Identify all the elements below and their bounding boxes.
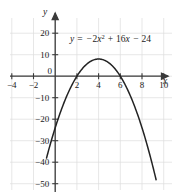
y-tick-label: 20 — [40, 28, 50, 38]
equation-annotation: y=−2x2+16x−24 — [69, 33, 151, 45]
parabola-graph-figure: −4−20246810 2010−10−20−30−40−50−60 y x y… — [0, 0, 175, 195]
x-tick-label: 8 — [140, 80, 145, 90]
x-tick-label: 4 — [96, 80, 101, 90]
x-tick-label: −2 — [29, 80, 39, 90]
y-tick-label: −40 — [35, 157, 50, 167]
x-tick-label: 6 — [118, 80, 123, 90]
y-tick-label: −20 — [35, 114, 50, 124]
y-tick-label: −10 — [35, 93, 50, 103]
equation-term1-sign: − — [87, 34, 92, 44]
x-tick-label: 2 — [75, 80, 80, 90]
equation-term2-var: x — [125, 34, 131, 44]
y-tick-label: −30 — [35, 136, 50, 146]
equation-term2-sign: + — [108, 34, 113, 44]
equation-term1-exponent: 2 — [101, 33, 104, 40]
x-tick-label: −4 — [7, 80, 17, 90]
equation-equals: = — [77, 34, 82, 44]
y-axis-label: y — [42, 7, 48, 17]
x-axis-tick-labels: −4−20246810 — [7, 66, 169, 91]
equation-term2-coeff: 16 — [116, 34, 126, 44]
x-tick-label: 0 — [47, 66, 52, 76]
x-axis-label: x — [162, 76, 168, 86]
y-axis-arrowhead — [52, 13, 58, 20]
equation-term3-value: 24 — [142, 34, 152, 44]
y-tick-label: 10 — [40, 50, 50, 60]
y-axis-tick-labels: 2010−10−20−30−40−50−60 — [35, 28, 50, 195]
coordinate-plane-svg: −4−20246810 2010−10−20−30−40−50−60 y x y… — [0, 0, 175, 195]
equation-lhs: y — [69, 34, 75, 44]
y-tick-label: −50 — [35, 179, 50, 189]
equation-term3-sign: − — [133, 34, 138, 44]
